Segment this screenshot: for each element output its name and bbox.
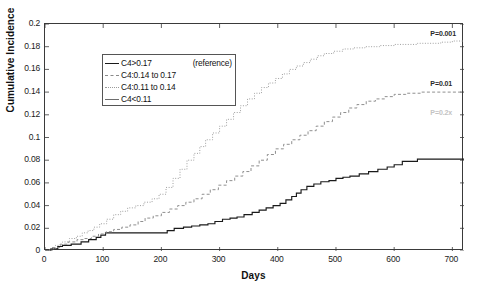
plot-area: C4>0.17(reference)C4:0.14 to 0.17C4:0.11…	[44, 23, 463, 250]
x-tick-label: 200	[154, 254, 168, 264]
y-tick-label: 0.08	[0, 154, 40, 164]
y-tick-label: 0.12	[0, 109, 40, 119]
legend-item: C4:0.14 to 0.17	[103, 69, 235, 81]
x-tick-label: 400	[270, 254, 284, 264]
legend-item: C4>0.17(reference)	[103, 57, 235, 69]
p-value-annotation: P=0.2x	[430, 109, 452, 116]
x-tick-label: 700	[445, 254, 459, 264]
legend: C4>0.17(reference)C4:0.14 to 0.17C4:0.11…	[102, 54, 236, 106]
x-tick-label: 500	[328, 254, 342, 264]
x-axis-title: Days	[44, 270, 463, 281]
y-tick-label: 0.2	[0, 18, 40, 28]
y-tick-label: 0.16	[0, 63, 40, 73]
y-tick-label: 0.1	[0, 132, 40, 142]
y-tick-label: 0.18	[0, 41, 40, 51]
legend-label: C4>0.17	[121, 58, 152, 68]
legend-line-sample	[105, 83, 119, 91]
legend-label: C4<0.11	[121, 94, 151, 104]
y-tick-label: 0.06	[0, 177, 40, 187]
legend-line-sample	[105, 71, 119, 79]
p-value-annotation: P=0.001	[430, 30, 456, 37]
chart-figure: Cumulative Incidence 00.020.040.060.080.…	[0, 0, 478, 296]
x-tick-label: 300	[212, 254, 226, 264]
p-value-annotation: P=0.01	[430, 80, 452, 87]
y-tick-label: 0	[0, 245, 40, 255]
legend-reference-note: (reference)	[193, 58, 232, 68]
legend-item: C4<0.11	[103, 93, 235, 105]
y-tick-label: 0.04	[0, 200, 40, 210]
series-line	[45, 92, 464, 251]
y-tick-label: 0.02	[0, 222, 40, 232]
legend-label: C4:0.14 to 0.17	[121, 70, 176, 80]
legend-line-sample	[105, 59, 119, 67]
legend-item: C4:0.11 to 0.14	[103, 81, 235, 93]
legend-line-sample	[105, 95, 119, 103]
x-tick-label: 600	[386, 254, 400, 264]
series-line	[45, 159, 464, 251]
x-tick-label: 0	[42, 254, 47, 264]
y-tick-label: 0.14	[0, 86, 40, 96]
x-tick-label: 100	[95, 254, 109, 264]
legend-label: C4:0.11 to 0.14	[121, 82, 175, 92]
